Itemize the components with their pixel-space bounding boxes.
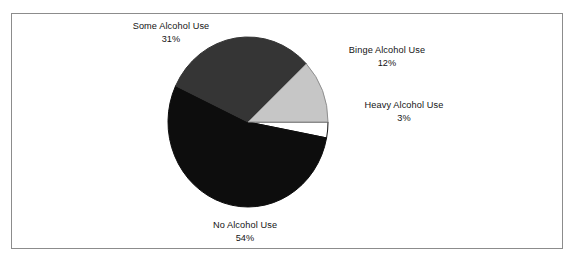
pie-label-heavy-alcohol-use-name: Heavy Alcohol Use [334, 99, 474, 112]
pie-label-some-alcohol-use-value: 31% [104, 33, 238, 46]
pie-label-some-alcohol-use-name: Some Alcohol Use [104, 20, 238, 33]
pie-slice-group [168, 37, 328, 207]
pie-label-no-alcohol-use: No Alcohol Use 54% [178, 219, 312, 244]
pie-label-some-alcohol-use: Some Alcohol Use 31% [104, 20, 238, 45]
pie-label-binge-alcohol-use-value: 12% [320, 57, 454, 70]
pie-label-no-alcohol-use-name: No Alcohol Use [178, 219, 312, 232]
pie-chart-figure: Some Alcohol Use 31% Binge Alcohol Use 1… [0, 0, 577, 261]
pie-label-heavy-alcohol-use: Heavy Alcohol Use 3% [334, 99, 474, 124]
pie-label-binge-alcohol-use: Binge Alcohol Use 12% [320, 44, 454, 69]
pie-label-no-alcohol-use-value: 54% [178, 232, 312, 245]
pie-label-binge-alcohol-use-name: Binge Alcohol Use [320, 44, 454, 57]
pie-label-heavy-alcohol-use-value: 3% [334, 112, 474, 125]
